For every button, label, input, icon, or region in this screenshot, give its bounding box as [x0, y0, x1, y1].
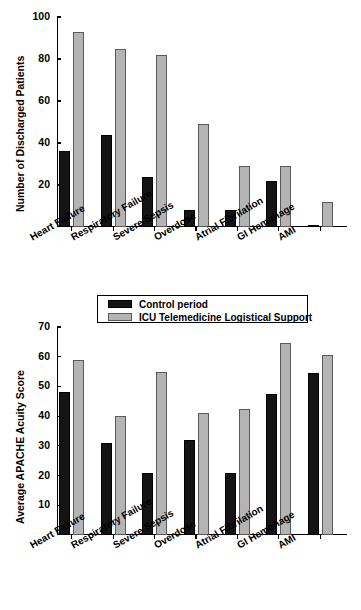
y-axis-label-bottom: Average APACHE Acuity Score: [14, 370, 26, 524]
y-axis-line-top: [57, 17, 58, 227]
y-tick-label: 10: [38, 498, 50, 511]
y-tick-label: 40: [38, 136, 50, 149]
y-tick-label: 80: [38, 52, 50, 65]
legend: Control period ICU Telemedicine Logistic…: [97, 295, 308, 323]
legend-item-control: Control period: [108, 298, 307, 310]
y-tick-label: 20: [38, 178, 50, 191]
y-tick-mark: [57, 142, 61, 143]
y-tick-label: 100: [32, 10, 50, 23]
bar-control-5: [266, 394, 277, 535]
y-tick-mark: [57, 356, 61, 357]
bar-control-0: [59, 392, 70, 535]
bar-telemedicine-5: [280, 343, 291, 535]
y-tick-label: 60: [38, 350, 50, 363]
legend-label-control: Control period: [139, 299, 208, 310]
x-tick-6: [320, 227, 321, 231]
bar-telemedicine-0: [73, 360, 84, 535]
plot-area-bottom: 10203040506070: [57, 327, 347, 535]
bar-telemedicine-0: [73, 32, 84, 227]
y-tick-label: 30: [38, 439, 50, 452]
bar-control-6: [308, 225, 319, 227]
chart-panel-apache-acuity: Control period ICU Telemedicine Logistic…: [0, 292, 361, 610]
y-tick-mark: [57, 16, 61, 17]
bar-telemedicine-6: [322, 202, 333, 227]
bar-telemedicine-3: [198, 413, 209, 535]
legend-label-telemedicine: ICU Telemedicine Logistical Support: [139, 312, 312, 323]
y-tick-label: 20: [38, 469, 50, 482]
y-axis-label-top: Number of Discharged Patients: [14, 56, 26, 212]
y-tick-mark: [57, 58, 61, 59]
figure-two-panel-bar-charts: Number of Discharged Patients 2040608010…: [0, 0, 361, 610]
bar-telemedicine-3: [198, 124, 209, 227]
y-tick-mark: [57, 100, 61, 101]
y-tick-label: 70: [38, 320, 50, 333]
x-tick-6: [320, 535, 321, 539]
chart-panel-discharged-patients: Number of Discharged Patients 2040608010…: [0, 0, 361, 295]
legend-item-telemedicine: ICU Telemedicine Logistical Support: [108, 311, 307, 323]
legend-swatch-control: [108, 300, 132, 308]
legend-swatch-telemedicine: [108, 313, 132, 321]
plot-area-top: 20406080100: [57, 17, 347, 227]
bar-telemedicine-6: [322, 355, 333, 535]
y-tick-mark: [57, 386, 61, 387]
y-tick-label: 50: [38, 379, 50, 392]
y-tick-label: 60: [38, 94, 50, 107]
y-tick-label: 40: [38, 409, 50, 422]
y-tick-mark: [57, 326, 61, 327]
bar-control-6: [308, 373, 319, 535]
